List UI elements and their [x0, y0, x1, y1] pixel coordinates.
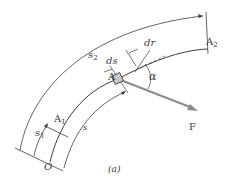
label-s1: s1	[35, 128, 45, 140]
s2-dimension-arc	[20, 16, 203, 150]
s2-arrowhead	[198, 14, 203, 18]
label-F: F	[189, 122, 196, 132]
force-arrowhead	[187, 104, 198, 111]
label-O: O	[44, 162, 52, 172]
label-alpha: α	[149, 71, 156, 82]
label-A2: A2	[206, 37, 218, 49]
label-s: s	[83, 124, 87, 132]
tick-O-outer	[15, 148, 63, 171]
ds-arrow-right	[129, 49, 138, 53]
s-arrowhead	[121, 91, 126, 95]
label-s2: s2	[88, 50, 98, 62]
dr-leader	[135, 50, 150, 72]
tick-A1	[45, 126, 68, 137]
figure-caption: (a)	[108, 165, 120, 174]
label-ds: ds	[106, 56, 118, 66]
label-dr: dr	[144, 38, 155, 48]
label-A: A	[108, 72, 115, 82]
diagram-canvas	[0, 0, 232, 188]
label-A1: A1	[54, 114, 66, 126]
force-arrow-shaft	[118, 79, 190, 107]
s-dimension-arc	[64, 92, 125, 168]
